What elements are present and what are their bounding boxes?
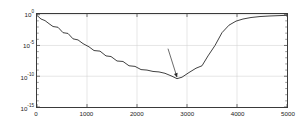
y-tick-exponent: 0 <box>31 9 34 14</box>
data-series-line <box>38 15 287 78</box>
plot-svg <box>37 14 287 107</box>
y-tick-label: 10-10 <box>20 73 34 80</box>
y-tick-exponent: -15 <box>27 103 34 108</box>
x-tick-label: 5000 <box>281 110 295 117</box>
y-tick-exponent: -10 <box>27 72 34 77</box>
x-tick-label: 2000 <box>130 110 144 117</box>
n-opt-arrow <box>168 49 178 77</box>
n-opt-arrow-head <box>174 73 178 77</box>
gridlines <box>37 14 287 107</box>
x-tick-label: 1000 <box>80 110 94 117</box>
y-tick-label: 10-5 <box>23 42 34 49</box>
y-tick-label: 10-15 <box>20 105 34 112</box>
x-tick-label: 3000 <box>180 110 194 117</box>
x-tick-label: 0 <box>34 110 37 117</box>
figure-container: 100 10-5 10-10 10-15 0 1000 2000 3000 40… <box>0 0 308 136</box>
n-opt-arrow-shaft <box>168 49 177 77</box>
y-tick-label: 100 <box>25 11 34 18</box>
y-axis-tick-labels: 100 10-5 10-10 10-15 <box>0 0 34 136</box>
x-tick-label: 4000 <box>231 110 245 117</box>
axis-ticks <box>37 14 287 107</box>
plot-area <box>36 13 288 108</box>
y-tick-exponent: -5 <box>30 41 34 46</box>
